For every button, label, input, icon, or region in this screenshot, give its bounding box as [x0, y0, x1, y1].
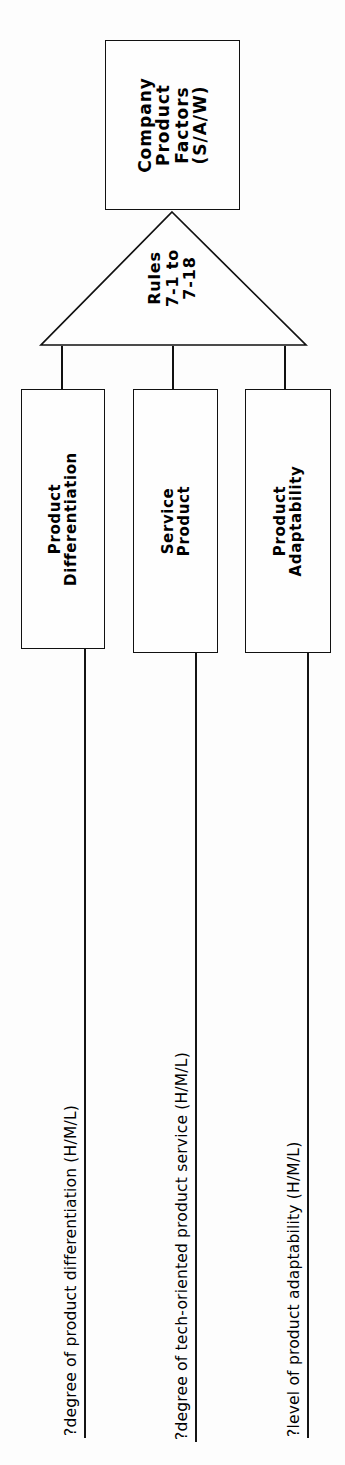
connector-to-service-product — [172, 346, 174, 390]
stem-service-product — [195, 652, 197, 1442]
connector-to-product-adaptability — [284, 346, 286, 390]
question-service-product: ?degree of tech-oriented product service… — [173, 1052, 191, 1440]
connector-to-product-differentiation — [61, 346, 63, 390]
node-product-differentiation[interactable]: Product Differentiation — [21, 389, 105, 649]
stem-product-differentiation — [84, 648, 86, 1438]
node-service-product[interactable]: Service Product — [133, 389, 218, 653]
node-product-adaptability-label: Product Adaptability — [272, 466, 304, 577]
node-company-product-factors[interactable]: Company Product Factors (S/A/W) — [105, 40, 240, 210]
stem-product-adaptability — [307, 652, 309, 1438]
rules-triangle-label: Rules 7-1 to 7-18 — [146, 249, 199, 307]
question-product-adaptability: ?level of product adaptability (H/M/L) — [285, 1142, 303, 1437]
node-product-differentiation-label: Product Differentiation — [47, 452, 79, 586]
node-service-product-label: Service Product — [159, 486, 191, 556]
node-company-product-factors-label: Company Product Factors (S/A/W) — [136, 77, 209, 173]
node-product-adaptability[interactable]: Product Adaptability — [245, 389, 331, 653]
question-product-differentiation: ?degree of product differentiation (H/M/… — [62, 1105, 80, 1436]
diagram-canvas: Company Product Factors (S/A/W) Rules 7-… — [0, 0, 345, 1465]
